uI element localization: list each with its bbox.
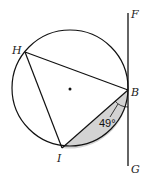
label-I: I [56,152,62,165]
chord-HI [25,52,62,148]
chord-HB [25,52,128,90]
label-F: F [130,8,139,21]
label-G: G [131,163,140,176]
label-B: B [130,86,139,99]
geometry-diagram: 49° H B I F G [0,0,147,180]
angle-label: 49° [99,117,116,129]
label-H: H [11,44,22,57]
center-point [69,88,72,91]
